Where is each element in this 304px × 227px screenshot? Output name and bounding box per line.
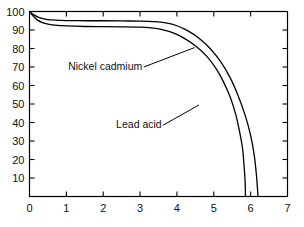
y-tick-label: 70 <box>12 61 24 73</box>
y-tick-label: 20 <box>12 154 24 166</box>
annotation-label-nickel-cadmium: Nickel cadmium <box>68 60 142 72</box>
y-tick-label: 40 <box>12 117 24 129</box>
y-tick-label: 50 <box>12 98 24 110</box>
y-tick-label: 100 <box>6 6 24 18</box>
x-tick-label: 4 <box>174 202 180 214</box>
chart-canvas: 01234567102030405060708090100Nickel cadm… <box>0 0 304 227</box>
x-tick-label: 0 <box>26 202 32 214</box>
y-tick-label: 80 <box>12 43 24 55</box>
plot-frame <box>30 12 288 197</box>
y-tick-label: 60 <box>12 80 24 92</box>
x-tick-label: 3 <box>137 202 143 214</box>
x-tick-label: 2 <box>100 202 106 214</box>
battery-discharge-chart: 01234567102030405060708090100Nickel cadm… <box>0 0 304 227</box>
x-tick-label: 1 <box>63 202 69 214</box>
y-tick-label: 30 <box>12 135 24 147</box>
x-tick-label: 7 <box>284 202 290 214</box>
x-tick-label: 5 <box>211 202 217 214</box>
annotation-label-lead-acid: Lead acid <box>116 118 162 130</box>
x-tick-label: 6 <box>248 202 254 214</box>
y-tick-label: 10 <box>12 172 24 184</box>
y-tick-label: 90 <box>12 24 24 36</box>
